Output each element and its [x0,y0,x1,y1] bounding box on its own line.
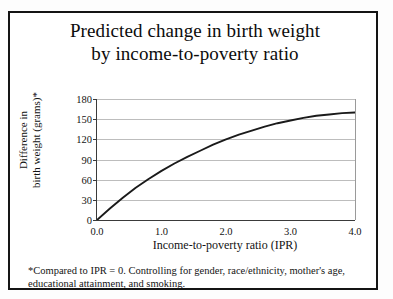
figure-border: Predicted change in birth weight by inco… [8,11,378,290]
y-axis-label-line2: birth weight (grams)* [30,76,43,204]
y-tick-label: 180 [76,94,92,105]
y-tick-label: 150 [76,114,92,125]
y-tick-label: 60 [82,174,93,185]
line-series-path [97,112,355,220]
figure-page: Predicted change in birth weight by inco… [0,0,393,299]
y-axis-label: Difference in birth weight (grams)* [17,76,43,204]
figure-title: Predicted change in birth weight by inco… [20,19,370,65]
x-tick-label: 3.0 [284,226,297,237]
y-axis-label-line1: Difference in [17,76,30,204]
figure-footnote-line2: educational attainment, and smoking. [28,277,376,290]
x-tick-label: 0.0 [90,226,103,237]
figure-title-line2: by income-to-poverty ratio [20,42,370,65]
series-curve-container [97,99,355,220]
plot-region: 0306090120150180 0.01.02.03.04.0 [96,99,355,221]
x-tick-label: 2.0 [219,226,232,237]
y-tick-label: 120 [76,134,92,145]
figure-footnote-line1: *Compared to IPR = 0. Controlling for ge… [28,264,376,277]
chart-area: Difference in birth weight (grams)* 0306… [10,75,376,253]
x-axis-label: Income-to-poverty ratio (IPR) [96,238,354,253]
figure-footnote: *Compared to IPR = 0. Controlling for ge… [28,264,376,290]
line-series-svg [97,99,355,220]
y-tick-label: 30 [82,194,93,205]
y-tick-label: 90 [82,154,93,165]
y-tick-label: 0 [87,215,92,226]
y-tick-mark [93,220,97,221]
x-tick-label: 1.0 [155,226,168,237]
figure-title-line1: Predicted change in birth weight [70,20,320,41]
x-tick-label: 4.0 [348,226,361,237]
